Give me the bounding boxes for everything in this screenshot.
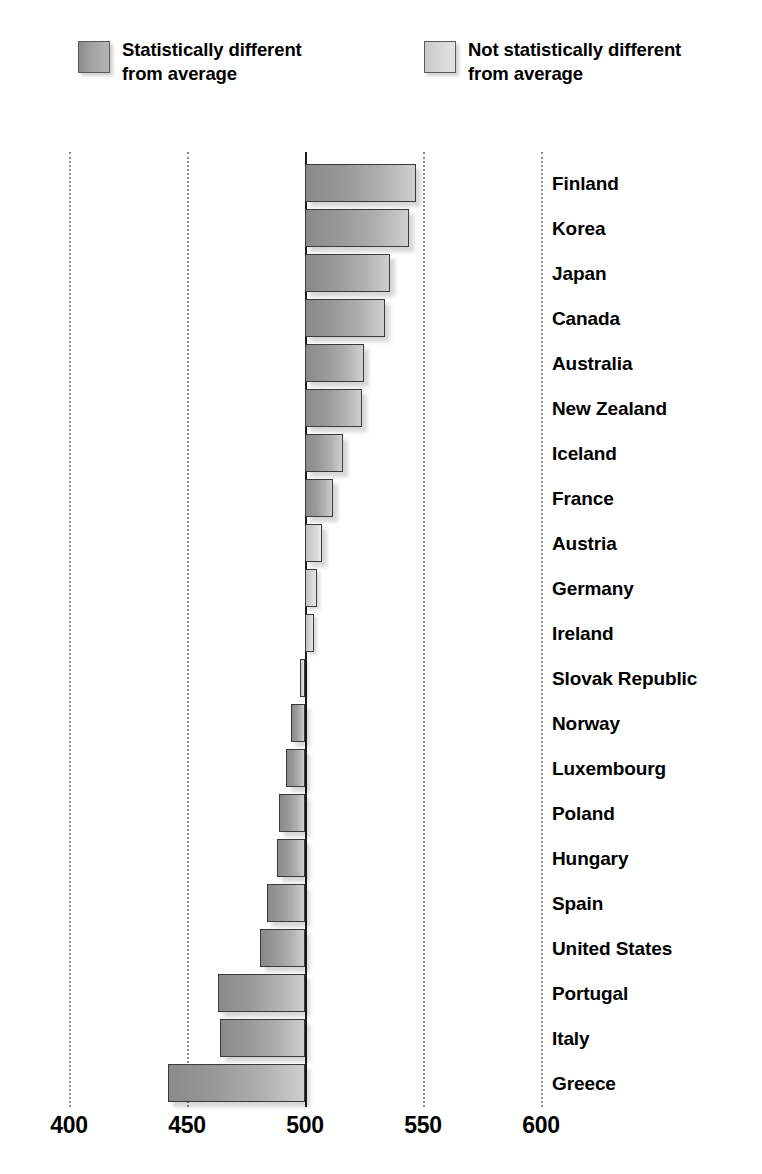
category-label-ireland: Ireland	[552, 611, 614, 656]
bar-iceland	[305, 434, 343, 472]
bar-row: Germany	[0, 566, 762, 611]
category-label-slovak-republic: Slovak Republic	[552, 656, 697, 701]
bar-new-zealand	[305, 389, 362, 427]
legend-swatch-dark-icon	[78, 41, 110, 73]
bar-portugal	[218, 974, 305, 1012]
bar-row: Luxembourg	[0, 746, 762, 791]
bar-ireland	[305, 614, 314, 652]
bar-germany	[305, 569, 317, 607]
category-label-greece: Greece	[552, 1061, 616, 1106]
bar-row: Italy	[0, 1016, 762, 1061]
chart-plot-area: FinlandKoreaJapanCanadaAustraliaNew Zeal…	[0, 152, 762, 1107]
category-label-austria: Austria	[552, 521, 617, 566]
legend-label-not-statistically-different: Not statistically different from average	[468, 38, 681, 85]
bar-australia	[305, 344, 364, 382]
x-tick-label-500: 500	[286, 1112, 323, 1139]
category-label-new-zealand: New Zealand	[552, 386, 667, 431]
bar-row: Greece	[0, 1061, 762, 1106]
x-tick-label-550: 550	[404, 1112, 441, 1139]
bar-luxembourg	[286, 749, 305, 787]
bar-united-states	[260, 929, 305, 967]
category-label-spain: Spain	[552, 881, 603, 926]
bar-row: Slovak Republic	[0, 656, 762, 701]
category-label-portugal: Portugal	[552, 971, 628, 1016]
category-label-united-states: United States	[552, 926, 672, 971]
legend-item-statistically-different: Statistically different from average	[78, 38, 302, 85]
bar-hungary	[277, 839, 305, 877]
bar-row: Hungary	[0, 836, 762, 881]
bar-row: Iceland	[0, 431, 762, 476]
category-label-australia: Australia	[552, 341, 632, 386]
legend-item-not-statistically-different: Not statistically different from average	[424, 38, 681, 85]
category-label-hungary: Hungary	[552, 836, 628, 881]
category-label-poland: Poland	[552, 791, 615, 836]
category-label-canada: Canada	[552, 296, 620, 341]
legend-label-statistically-different: Statistically different from average	[122, 38, 302, 85]
category-label-germany: Germany	[552, 566, 634, 611]
bar-row: Australia	[0, 341, 762, 386]
x-tick-label-450: 450	[168, 1112, 205, 1139]
bar-slovak-republic	[300, 659, 305, 697]
bar-finland	[305, 164, 416, 202]
bar-row: New Zealand	[0, 386, 762, 431]
category-label-luxembourg: Luxembourg	[552, 746, 666, 791]
category-label-iceland: Iceland	[552, 431, 617, 476]
category-label-finland: Finland	[552, 161, 619, 206]
bar-row: France	[0, 476, 762, 521]
bar-austria	[305, 524, 322, 562]
chart-x-axis: 400450500550600	[0, 1112, 762, 1152]
category-label-france: France	[552, 476, 614, 521]
bar-row: Ireland	[0, 611, 762, 656]
bar-france	[305, 479, 333, 517]
chart-bars-layer: FinlandKoreaJapanCanadaAustraliaNew Zeal…	[0, 152, 762, 1107]
bar-row: Portugal	[0, 971, 762, 1016]
bar-row: Japan	[0, 251, 762, 296]
legend-swatch-light-icon	[424, 41, 456, 73]
bar-row: Spain	[0, 881, 762, 926]
bar-japan	[305, 254, 390, 292]
bar-row: Korea	[0, 206, 762, 251]
category-label-norway: Norway	[552, 701, 620, 746]
bar-spain	[267, 884, 305, 922]
x-tick-label-400: 400	[50, 1112, 87, 1139]
bar-poland	[279, 794, 305, 832]
bar-row: Canada	[0, 296, 762, 341]
bar-row: Norway	[0, 701, 762, 746]
category-label-italy: Italy	[552, 1016, 590, 1061]
bar-italy	[220, 1019, 305, 1057]
bar-greece	[168, 1064, 305, 1102]
bar-row: Austria	[0, 521, 762, 566]
bar-row: United States	[0, 926, 762, 971]
bar-canada	[305, 299, 385, 337]
x-tick-label-600: 600	[522, 1112, 559, 1139]
bar-norway	[291, 704, 305, 742]
category-label-japan: Japan	[552, 251, 606, 296]
bar-korea	[305, 209, 409, 247]
chart-legend: Statistically different from average Not…	[0, 38, 762, 108]
bar-row: Finland	[0, 161, 762, 206]
category-label-korea: Korea	[552, 206, 605, 251]
bar-row: Poland	[0, 791, 762, 836]
